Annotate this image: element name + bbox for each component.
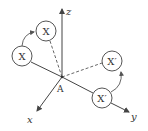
origin-label: A [56,84,64,94]
y-axis-label: y [130,111,137,122]
x-axis [37,77,62,111]
x-axis-label: x [27,114,33,125]
y-axis-back [31,62,62,77]
dashed-line-to-xprime-right [62,63,102,77]
rotation-diagram: z x y A X X X′ X′ [0,0,148,131]
y-axis-front [62,77,93,93]
origin-point [61,76,64,79]
node-x-left: X [12,46,32,66]
node-x-top: X [36,21,56,41]
svg-text:X′: X′ [107,56,117,67]
rotation-arrow-xprime [111,72,121,92]
node-xprime-right: X′ [102,51,122,71]
svg-text:X′: X′ [97,93,107,104]
node-xprime-lower: X′ [92,88,112,108]
svg-text:X: X [18,51,26,62]
z-axis-label: z [65,6,72,17]
svg-text:X: X [42,26,50,37]
y-axis-arrow [111,103,129,112]
rotation-arrow-x [22,32,34,46]
